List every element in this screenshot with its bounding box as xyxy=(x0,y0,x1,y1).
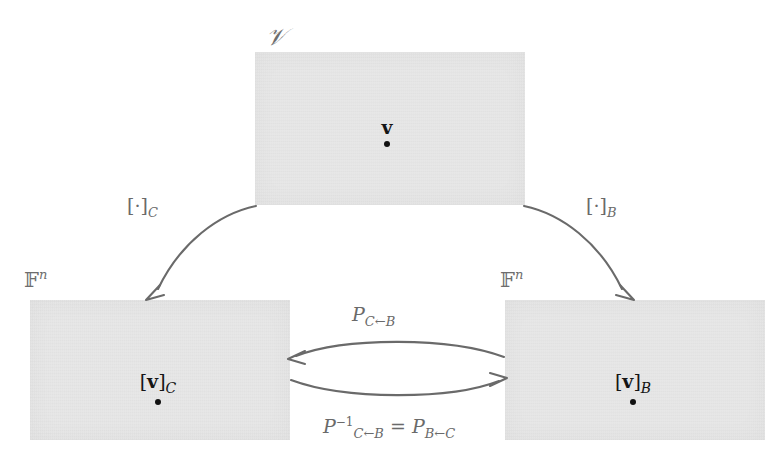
point-v: v xyxy=(357,118,417,147)
point-v-c-vector: v xyxy=(147,370,158,392)
arrow-label-pinv-subscript2: B←C xyxy=(425,426,455,441)
point-v-c-subscript: C xyxy=(166,380,177,396)
point-v-label: v xyxy=(357,118,417,137)
point-v-vector: v xyxy=(381,116,392,138)
point-v-c-close-bracket: ] xyxy=(158,370,165,392)
space-label-f-c-base: 𝔽 xyxy=(24,268,39,292)
point-v-b-subscript: B xyxy=(641,380,651,396)
arrow-change-of-basis-c-from-b-head xyxy=(288,351,305,364)
arrow-coord-map-b-head xyxy=(616,285,634,300)
arrow-change-of-basis-c-from-b-path xyxy=(296,342,504,357)
arrow-label-pinv-base: P xyxy=(323,415,336,437)
point-v-c-dot xyxy=(155,399,161,405)
point-v-dot xyxy=(384,141,390,147)
arrow-coord-map-c-path xyxy=(158,206,256,289)
point-v-b-close-bracket: ] xyxy=(633,370,640,392)
space-label-f-b-base: 𝔽 xyxy=(500,268,515,292)
arrow-label-change-of-basis-c-from-b: PC←B xyxy=(352,305,395,328)
point-v-c-label: [v]C xyxy=(122,372,194,395)
arrow-label-coord-map-b-close: ] xyxy=(599,194,606,216)
arrow-label-coord-map-b-subscript: B xyxy=(607,205,617,220)
arrow-label-pinv-superscript: −1 xyxy=(336,415,354,429)
arrow-label-pcb-subscript: C←B xyxy=(365,314,395,329)
arrow-coord-map-c-head xyxy=(146,285,164,300)
point-v-c: [v]C xyxy=(122,372,194,405)
space-label-v-text: 𝒱 xyxy=(266,23,286,51)
space-label-f-c: 𝔽n xyxy=(24,268,47,291)
point-v-b-dot xyxy=(630,399,636,405)
space-label-v: 𝒱 xyxy=(266,25,286,49)
arrow-label-pinv-subscript: C←B xyxy=(354,426,384,441)
point-v-b-vector: v xyxy=(622,370,633,392)
space-label-f-b-exponent: n xyxy=(515,267,523,282)
arrow-label-pinv-base2: P xyxy=(412,415,425,437)
arrow-label-coord-map-c: [·]C xyxy=(127,196,158,219)
point-v-b-label: [v]B xyxy=(597,372,669,395)
arrow-label-pinv-equals: = xyxy=(390,415,406,437)
arrow-label-coord-map-c-close: ] xyxy=(140,194,147,216)
space-label-f-c-exponent: n xyxy=(39,267,47,282)
arrow-label-change-of-basis-b-from-c: P−1C←B = PB←C xyxy=(323,416,455,440)
arrow-label-coord-map-b: [·]B xyxy=(586,196,616,219)
arrow-change-of-basis-b-from-c-path xyxy=(291,380,499,395)
diagram-canvas: 𝒱 𝔽n 𝔽n v [v]C [v]B xyxy=(0,0,770,470)
point-v-c-open-bracket: [ xyxy=(140,370,147,392)
arrow-label-pcb-base: P xyxy=(352,303,365,325)
space-label-f-b: 𝔽n xyxy=(500,268,523,291)
point-v-b: [v]B xyxy=(597,372,669,405)
arrow-label-coord-map-c-subscript: C xyxy=(148,205,158,220)
